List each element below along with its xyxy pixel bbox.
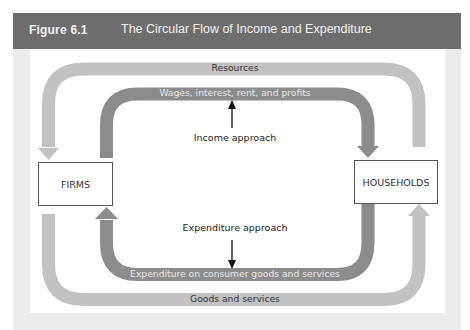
households-box: HOUSEHOLDS [354,160,438,204]
income-arrowhead-icon [357,146,379,158]
resources-label: Resources [180,62,290,73]
income-flow [107,94,369,158]
expenditure-arrowhead-icon [95,207,118,219]
resources-arrowhead-icon [38,148,59,160]
wages-label: Wages, interest, rent, and profits [150,87,320,98]
households-label: HOUSEHOLDS [363,177,430,188]
income-approach-label: Income approach [180,132,290,143]
income-arrow-up-icon [228,100,236,109]
consumer-expenditure-label: Expenditure on consumer goods and servic… [120,268,350,279]
expenditure-approach-label: Expenditure approach [170,222,300,233]
goods-services-label: Goods and services [170,293,300,304]
firms-box: FIRMS [38,162,113,206]
expenditure-flow [107,203,369,275]
goods-services-arrowhead-icon [408,204,430,216]
firms-label: FIRMS [61,179,90,190]
